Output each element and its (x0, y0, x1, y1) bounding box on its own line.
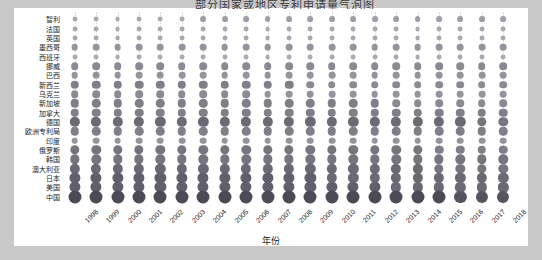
bubble-point (263, 145, 272, 154)
bubble-point (390, 190, 403, 203)
bubble-point (220, 117, 230, 127)
bubble-point (199, 90, 207, 98)
bubble-point (456, 127, 465, 136)
bubble-point (155, 117, 165, 127)
bubble-point (350, 91, 357, 98)
bubble-point (371, 137, 378, 144)
bubble-point (477, 117, 486, 126)
bubble-point (201, 36, 206, 41)
bubble-point (479, 91, 486, 98)
bubble-point (92, 99, 101, 108)
bubble-point (113, 80, 122, 89)
bubble-point (499, 81, 507, 89)
bubble-point (264, 62, 272, 70)
bubble-point (479, 44, 486, 51)
bubble-point (392, 100, 400, 108)
bubble-point (393, 72, 400, 79)
bubble-point (458, 17, 464, 23)
bubble-point (200, 72, 207, 79)
bubble-point (435, 108, 444, 117)
bubble-point (135, 80, 144, 89)
bubble-point (501, 54, 506, 59)
bubble-point (137, 54, 142, 59)
x-axis-tick-label: 2009 (319, 208, 335, 224)
bubble-point (479, 137, 486, 144)
bubble-point (479, 36, 484, 41)
bubble-point (222, 26, 227, 31)
x-axis-tick-label: 1998 (83, 208, 99, 224)
bubble-point (137, 26, 142, 31)
bubble-point (91, 145, 100, 154)
bubble-point (179, 54, 184, 59)
x-axis-tick-label: 2005 (233, 208, 249, 224)
bubble-point (434, 117, 444, 127)
bubble-point (198, 117, 208, 127)
bubble-point (457, 44, 464, 51)
bubble-point (329, 91, 336, 98)
y-axis-tick-label: 新西兰 (39, 81, 60, 88)
bubble-point (307, 137, 314, 144)
bubble-point (158, 36, 163, 41)
bubble-point (134, 145, 143, 154)
bubble-point (414, 72, 421, 79)
bubble-point (372, 17, 378, 23)
bubble-point (244, 36, 249, 41)
bubble-point (436, 17, 442, 23)
bubble-point (112, 117, 122, 127)
bubble-point (501, 36, 506, 41)
bubble-point (308, 17, 314, 23)
bubble-point (72, 54, 77, 59)
bubble-point (414, 44, 421, 51)
bubble-point (306, 145, 315, 154)
bubble-point (392, 127, 401, 136)
bubble-point (156, 127, 165, 136)
bubble-point (329, 36, 334, 41)
bubble-point (436, 137, 443, 144)
bubble-point (287, 36, 292, 41)
bubble-point (329, 26, 334, 31)
bubble-point (114, 90, 122, 98)
bubble-point (499, 155, 508, 164)
bubble-point (92, 90, 100, 98)
bubble-point (113, 145, 122, 154)
bubble-point (286, 17, 292, 23)
bubble-point (197, 190, 210, 203)
bubble-point (415, 17, 421, 23)
bubble-point (263, 99, 272, 108)
bubble-point (350, 44, 357, 51)
bubble-point (415, 36, 420, 41)
bubble-point (329, 137, 336, 144)
bubble-point (478, 62, 486, 70)
bubble-point (70, 145, 79, 154)
bubble-point (242, 62, 250, 70)
bubble-point (135, 127, 144, 136)
bubble-point (478, 146, 487, 155)
bubble-point (199, 80, 208, 89)
bubble-point (286, 137, 293, 144)
bubble-point (435, 81, 443, 89)
bubble-point (371, 81, 379, 89)
bubble-point (179, 17, 184, 22)
bubble-point (70, 127, 79, 136)
bubble-point (479, 17, 485, 23)
bubble-point (201, 54, 206, 59)
bubble-point (93, 44, 100, 51)
bubble-point (135, 90, 143, 98)
bubble-point (158, 26, 163, 31)
bubble-point (435, 62, 443, 70)
bubble-point (220, 80, 229, 89)
bubble-point (479, 54, 484, 59)
y-axis-tick-label: 巴西 (46, 72, 60, 79)
bubble-point (392, 108, 401, 117)
bubble-point (156, 108, 165, 117)
bubble-point (371, 44, 378, 51)
bubble-point (306, 99, 315, 108)
bubble-point (329, 17, 335, 23)
bubble-point (349, 127, 358, 136)
bubble-point (435, 127, 444, 136)
bubble-point (304, 190, 317, 203)
x-axis-tick-label: 2015 (448, 208, 464, 224)
bubble-point (200, 44, 207, 51)
bubble-point (94, 36, 99, 41)
bubble-point (329, 72, 336, 79)
